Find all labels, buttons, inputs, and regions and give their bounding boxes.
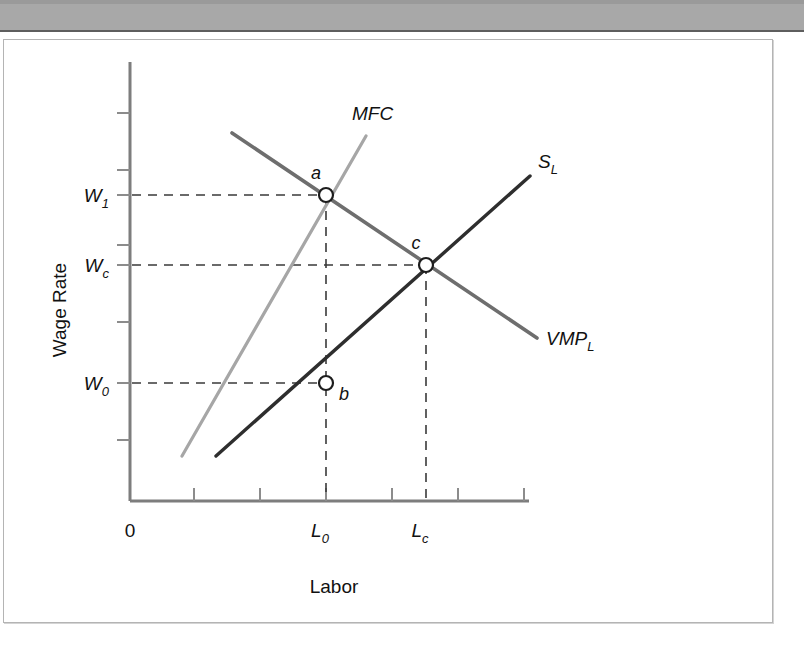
y-tick-label-wc: Wc (85, 255, 110, 281)
figure-header-band (0, 0, 804, 30)
curve-mfc (182, 136, 366, 456)
x-tick-label-l0-sub: 0 (322, 531, 330, 546)
curve-label-mfc-base: MFC (352, 103, 393, 124)
point-marker-a (319, 188, 333, 202)
y-axis-title: Wage Rate (49, 263, 70, 357)
x-tick-label-l0-base: L (311, 520, 322, 541)
curve-label-vmpl-sub: L (587, 339, 594, 354)
curve-label-sl: SL (538, 151, 558, 177)
y-tick-label-w1: W1 (84, 185, 109, 211)
header-divider-rule (0, 30, 804, 32)
header-band-highlight (0, 0, 804, 4)
curve-label-vmpl-base: VMP (546, 328, 588, 349)
x-tick-label-l0: L0 (311, 520, 330, 546)
y-axis-ticks (117, 113, 130, 440)
guide-lines (132, 195, 426, 499)
x-tick-label-lc-sub: c (422, 531, 429, 546)
y-tick-label-w0: W0 (84, 373, 110, 399)
x-axis-origin-label: 0 (125, 520, 136, 541)
chart-points (319, 188, 433, 390)
x-tick-label-lc: Lc (411, 520, 429, 546)
x-tick-label-lc-base: L (411, 520, 422, 541)
point-marker-c (419, 258, 433, 272)
point-label-a: a (311, 163, 321, 183)
y-tick-label-w0-sub: 0 (102, 384, 110, 399)
point-label-c: c (412, 233, 421, 253)
y-tick-label-wc-sub: c (103, 266, 110, 281)
x-axis-title: Labor (310, 576, 359, 597)
curve-label-sl-sub: L (551, 162, 558, 177)
curve-label-vmpl: VMPL (546, 328, 594, 354)
monopsony-labor-market-chart: a b c MFC SL VMPL W1 Wc W0 0 L0 Lc (4, 40, 774, 624)
point-marker-b (319, 376, 333, 390)
y-tick-label-w1-sub: 1 (102, 196, 109, 211)
chart-axes (130, 62, 529, 501)
point-label-b: b (339, 384, 349, 404)
figure-panel: a b c MFC SL VMPL W1 Wc W0 0 L0 Lc (3, 39, 773, 623)
curve-label-mfc: MFC (352, 103, 393, 124)
x-axis-ticks (194, 488, 524, 501)
chart-curves (182, 133, 537, 456)
curve-label-sl-base: S (538, 151, 551, 172)
